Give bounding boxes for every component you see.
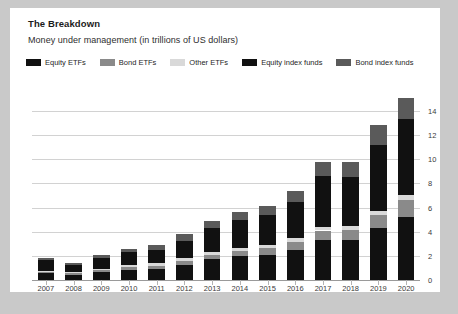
bar-segment-bond-etfs [370, 215, 387, 228]
bar-segment-bond-etfs [232, 251, 249, 256]
bar-2019[interactable] [370, 125, 387, 280]
legend-label: Bond ETFs [119, 58, 157, 67]
bar-segment-bond-index-funds [148, 245, 165, 250]
bar-2018[interactable] [342, 162, 359, 280]
chart-subtitle: Money under management (in trillions of … [28, 35, 238, 45]
y-axis-tick-label: 0 [428, 276, 432, 285]
bar-segment-bond-etfs [259, 248, 276, 255]
x-axis-tick-mark [74, 280, 75, 285]
gridline-4 [32, 232, 420, 233]
gridline-6 [32, 208, 420, 209]
bar-segment-bond-etfs [204, 255, 221, 259]
gridline-14 [32, 111, 420, 112]
bar-segment-bond-index-funds [204, 221, 221, 228]
bar-segment-equity-index-funds [65, 265, 82, 272]
bar-segment-bond-index-funds [342, 162, 359, 177]
bar-segment-equity-etfs [259, 255, 276, 280]
gridline-8 [32, 183, 420, 184]
x-axis-tick-mark [184, 280, 185, 285]
chart-legend: Equity ETFsBond ETFsOther ETFsEquity ind… [26, 56, 438, 68]
bar-segment-other-etfs [93, 269, 110, 271]
legend-swatch-icon [170, 59, 185, 66]
chart-card: The Breakdown Money under management (in… [10, 8, 440, 292]
bar-segment-equity-etfs [121, 270, 138, 280]
y-axis-tick-label: 2 [428, 251, 432, 260]
bar-2008[interactable] [65, 263, 82, 280]
y-axis-tick-label: 4 [428, 227, 432, 236]
bar-2016[interactable] [287, 191, 304, 280]
bar-segment-equity-index-funds [232, 220, 249, 248]
gridline-12 [32, 135, 420, 136]
bar-segment-equity-index-funds [287, 202, 304, 238]
gridline-2 [32, 256, 420, 257]
bar-segment-equity-index-funds [93, 258, 110, 268]
legend-item-equity-etfs[interactable]: Equity ETFs [26, 58, 86, 67]
bar-segment-bond-etfs [287, 242, 304, 250]
x-axis-tick-mark [101, 280, 102, 285]
x-axis-tick-label: 2009 [93, 284, 110, 293]
gridline-0 [32, 280, 420, 281]
legend-label: Equity index funds [261, 58, 322, 67]
bar-segment-bond-etfs [176, 261, 193, 265]
bar-segment-equity-etfs [93, 272, 110, 280]
x-axis-tick-label: 2012 [176, 284, 193, 293]
bar-segment-equity-etfs [342, 240, 359, 280]
legend-item-equity-index-funds[interactable]: Equity index funds [242, 58, 322, 67]
y-axis-tick-label: 14 [428, 106, 436, 115]
x-axis-tick-mark [129, 280, 130, 285]
bar-segment-equity-index-funds [38, 260, 55, 271]
bar-segment-bond-etfs [38, 272, 55, 273]
bar-segment-other-etfs [38, 271, 55, 272]
x-axis-tick-label: 2008 [65, 284, 82, 293]
x-axis-tick-label: 2019 [370, 284, 387, 293]
bar-segment-other-etfs [259, 245, 276, 248]
bar-segment-equity-index-funds [398, 119, 415, 195]
legend-item-bond-index-funds[interactable]: Bond index funds [336, 58, 413, 67]
bar-2010[interactable] [121, 249, 138, 280]
x-axis-tick-label: 2010 [121, 284, 138, 293]
plot-area [32, 94, 420, 280]
bar-segment-bond-index-funds [259, 206, 276, 216]
bar-segment-equity-index-funds [370, 145, 387, 210]
bar-segment-other-etfs [204, 252, 221, 255]
bar-2009[interactable] [93, 255, 110, 280]
bar-segment-bond-etfs [342, 230, 359, 240]
y-axis-tick-label: 8 [428, 179, 432, 188]
bar-2014[interactable] [232, 212, 249, 280]
bar-segment-equity-index-funds [259, 215, 276, 245]
legend-swatch-icon [336, 59, 351, 66]
x-axis-tick-mark [240, 280, 241, 285]
bar-segment-equity-etfs [148, 269, 165, 280]
bar-2012[interactable] [176, 234, 193, 280]
x-axis-tick-mark [295, 280, 296, 285]
x-axis-tick-label: 2017 [315, 284, 332, 293]
x-axis-tick-mark [351, 280, 352, 285]
x-axis-tick-label: 2020 [398, 284, 415, 293]
bar-segment-bond-etfs [93, 270, 110, 272]
x-axis-tick-mark [378, 280, 379, 285]
legend-label: Equity ETFs [45, 58, 86, 67]
bar-segment-bond-etfs [398, 200, 415, 217]
y-axis-tick-label: 10 [428, 155, 436, 164]
bar-segment-bond-index-funds [38, 258, 55, 260]
bar-2007[interactable] [38, 258, 55, 280]
bar-2017[interactable] [315, 162, 332, 280]
legend-item-bond-etfs[interactable]: Bond ETFs [100, 58, 157, 67]
x-axis-tick-mark [323, 280, 324, 285]
bar-2015[interactable] [259, 206, 276, 280]
x-axis-tick-label: 2011 [149, 284, 165, 293]
bar-segment-bond-index-funds [287, 191, 304, 202]
bar-segment-equity-etfs [287, 250, 304, 280]
bar-2011[interactable] [148, 245, 165, 280]
x-axis-tick-label: 2013 [204, 284, 221, 293]
bar-2013[interactable] [204, 221, 221, 280]
legend-item-other-etfs[interactable]: Other ETFs [170, 58, 228, 67]
bar-segment-equity-index-funds [315, 176, 332, 227]
bar-segment-other-etfs [232, 248, 249, 251]
legend-swatch-icon [26, 59, 41, 66]
bar-segment-other-etfs [148, 263, 165, 265]
bar-2020[interactable] [398, 98, 415, 280]
bar-segment-equity-etfs [398, 217, 415, 280]
bar-segment-other-etfs [65, 272, 82, 273]
x-axis-tick-mark [268, 280, 269, 285]
